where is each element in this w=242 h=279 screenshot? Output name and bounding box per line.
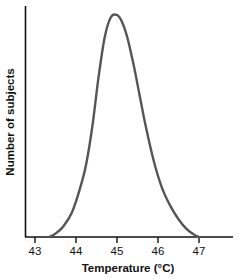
distribution-plot: 43 44 45 46 47 Temperature (°C) Number o… xyxy=(0,0,242,279)
x-tick-label-4: 47 xyxy=(193,245,206,257)
x-axis-tick-labels: 43 44 45 46 47 xyxy=(29,245,206,257)
x-axis-title: Temperature (°C) xyxy=(82,262,175,274)
x-tick-label-0: 43 xyxy=(29,245,42,257)
chart-container: 43 44 45 46 47 Temperature (°C) Number o… xyxy=(0,0,242,279)
x-axis-ticks xyxy=(35,237,199,243)
y-axis-title: Number of subjects xyxy=(4,68,16,175)
distribution-curve xyxy=(49,14,199,237)
x-tick-label-2: 45 xyxy=(111,245,124,257)
x-tick-label-1: 44 xyxy=(70,245,83,257)
x-tick-label-3: 46 xyxy=(152,245,165,257)
